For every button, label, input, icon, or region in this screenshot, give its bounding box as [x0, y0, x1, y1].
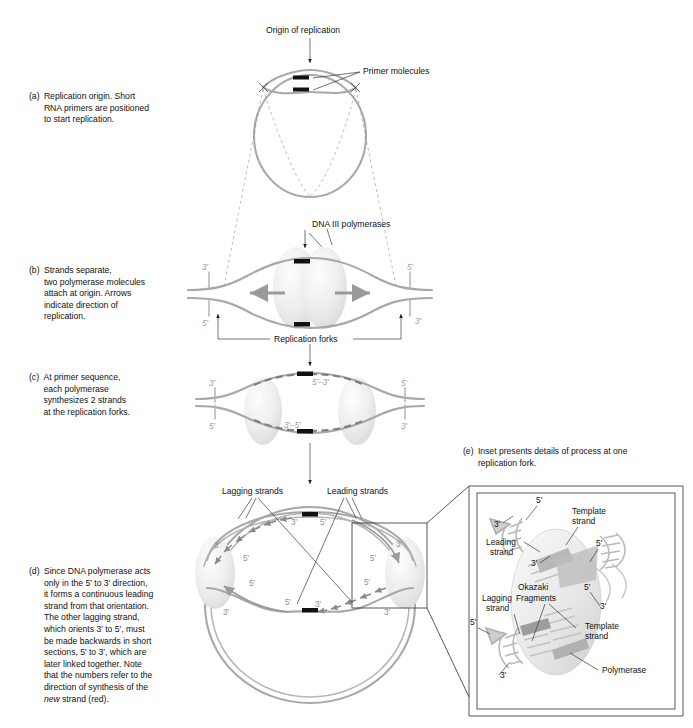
primer-top — [293, 76, 309, 80]
d-tick-9: 5' — [364, 578, 371, 587]
inset-tick-7: 5' — [470, 617, 477, 627]
circle-d-inner — [211, 513, 409, 697]
inset-label-leading-1: Leading — [486, 537, 516, 547]
inset-tick-5: 5' — [584, 582, 591, 592]
d-tick-10: 3' — [384, 608, 391, 617]
inset-label-leading-2: strand — [490, 547, 514, 557]
tick-c-5prime-lower-left: 5' — [209, 422, 216, 431]
tick-c-5prime-upper-right: 5' — [401, 379, 408, 388]
plasmid-outer-circle — [254, 75, 366, 197]
tick-c-3prime-lower-right: 3' — [401, 422, 408, 431]
d-tick-3: 3' — [214, 541, 221, 550]
circle-d-outer — [205, 507, 415, 703]
inset-tick-1: 5' — [536, 495, 543, 505]
lagging-leader-a — [238, 498, 252, 519]
lagging-leader-b — [246, 498, 256, 518]
inset-tick-3: 3' — [531, 558, 538, 568]
inset-label-polymerase: Polymerase — [602, 665, 647, 675]
inset-tick-8: 3' — [500, 670, 507, 680]
d-tick-5: 5' — [249, 579, 256, 588]
inset-label-template-bottom-2: strand — [585, 631, 609, 641]
inset-label-template-top-2: strand — [572, 516, 596, 526]
primer-b-bottom — [294, 322, 310, 327]
polymerase-leader-a — [309, 233, 322, 247]
panel-a-graphic: Origin of replication Primer molecules — [224, 25, 429, 286]
tick-b-3prime-upper-left: 3' — [202, 263, 209, 272]
inset-helix-lagging — [486, 628, 523, 668]
inset-label-template-top-1: Template — [572, 506, 606, 516]
tick-b-5prime-upper-right: 5' — [407, 263, 414, 272]
leading-strand-arrow-lower-left — [224, 586, 289, 612]
d-tick-11: 3' — [315, 600, 322, 609]
inset-tickline-2 — [503, 516, 513, 523]
tick-b-5prime-lower-left: 5' — [202, 319, 209, 328]
polymerase-blob-c-left — [244, 377, 282, 445]
panel-d-graphic: Lagging strands Leading strands — [195, 486, 425, 703]
inset-label-lagging-2: strand — [486, 603, 510, 613]
label-lagging-strands: Lagging strands — [222, 486, 283, 496]
inset-label-okazaki-2: Fragments — [516, 593, 556, 603]
inset-label-okazaki-1: Okazaki — [518, 582, 548, 592]
inset-tick-4: 5' — [596, 538, 603, 548]
d-tick-12: 5' — [285, 598, 292, 607]
tick-b-3prime-lower-right: 3' — [415, 317, 422, 326]
strand-c-upper — [196, 373, 424, 399]
primer-c-top — [297, 372, 313, 377]
primer-d-top — [302, 512, 318, 517]
tick-c-3prime-upper-left: 3' — [209, 379, 216, 388]
inset-tick-2: 3' — [494, 519, 501, 529]
inset-label-lagging-1: Lagging — [482, 593, 512, 603]
label-leading-strands: Leading strands — [327, 486, 388, 496]
primer-bottom — [293, 88, 309, 92]
label-primer-molecules: Primer molecules — [363, 66, 429, 76]
d-tick-7: 3' — [396, 540, 403, 549]
inset-connector-bottom — [427, 608, 469, 697]
label-dna-iii-polymerases: DNA III polymerases — [312, 219, 390, 229]
d-tick-2: 5' — [320, 518, 327, 527]
diagram-svg: Origin of replication Primer molecules — [0, 0, 693, 728]
strand-c-lower — [196, 406, 424, 433]
polymerase-blob-c-right — [338, 377, 376, 445]
label-c-3to5: 3′–5′ — [284, 421, 301, 430]
d-tick-1: 3' — [291, 518, 298, 527]
figure-canvas: (a) Replication origin. Short RNA primer… — [0, 0, 693, 728]
expand-guide-left — [224, 89, 263, 286]
polymerase-leader-b — [327, 229, 332, 245]
inset-connector-top — [427, 486, 469, 523]
inset-tickline-1 — [526, 506, 537, 520]
label-origin-of-replication: Origin of replication — [266, 25, 340, 35]
label-replication-forks: Replication forks — [274, 334, 338, 344]
d-tick-6: 3' — [223, 608, 230, 617]
d-tick-4: 5' — [243, 554, 250, 563]
panel-b-graphic: DNA III polymerases 3' 5' 5' 3' — [188, 219, 432, 366]
panel-c-graphic: 5′–3′ 3′–5′ 3' 5' 5' 3' — [196, 372, 424, 485]
d-tick-8: 5' — [370, 554, 377, 563]
primer-b-top — [294, 259, 310, 264]
expand-guide-right — [356, 89, 396, 286]
label-c-5to3: 5′–3′ — [312, 378, 329, 387]
inset-tick-6: 3' — [600, 601, 607, 611]
strand-d-bubble-top — [207, 512, 413, 560]
inset-label-template-bottom-1: Template — [585, 621, 619, 631]
